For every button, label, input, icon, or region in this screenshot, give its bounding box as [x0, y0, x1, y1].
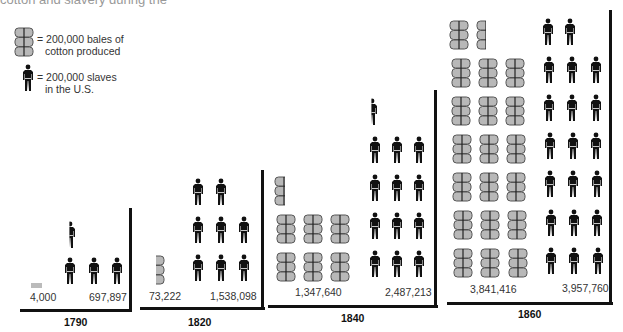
cotton-bale-icon [452, 134, 472, 164]
slave-figure-partial-icon [64, 221, 76, 249]
cotton-bale-icon [453, 248, 473, 278]
cotton-bale-icon [449, 20, 469, 50]
slave-figure-icon [568, 247, 580, 275]
cotton-bale-icon [480, 210, 500, 240]
slave-figure-icon [543, 94, 555, 122]
slave-figure-icon [369, 136, 381, 164]
cotton-bale-partial-icon [145, 255, 165, 285]
slave-figure-icon [391, 136, 403, 164]
slave-figure-icon [413, 174, 425, 202]
slave-figure-icon [111, 257, 123, 285]
chart-title-partial: cotton and slavery during the [0, 0, 167, 7]
cotton-bale-icon [451, 96, 471, 126]
slave-figure-icon [591, 170, 603, 198]
baseline [268, 305, 438, 308]
cotton-bale-icon [303, 252, 323, 282]
cotton-value-label: 4,000 [30, 291, 56, 303]
slave-figure-icon [391, 212, 403, 240]
legend-cotton-line2: cotton produced [45, 45, 120, 57]
cotton-value-label: 3,841,416 [470, 283, 517, 295]
panel-border [261, 170, 264, 310]
slaves-value-label: 697,897 [89, 291, 127, 303]
cotton-bale-fraction-icon [31, 283, 42, 288]
cotton-bale-icon [505, 58, 525, 88]
slave-figure-icon [192, 178, 204, 206]
slave-figure-icon [238, 216, 250, 244]
cotton-bale-icon [451, 58, 471, 88]
year-label: 1820 [188, 316, 211, 328]
slave-figure-icon [566, 94, 578, 122]
slave-figure-icon [192, 216, 204, 244]
slave-figure-icon [413, 212, 425, 240]
cotton-bale-icon [478, 96, 498, 126]
slave-figure-icon [544, 132, 556, 160]
cotton-bale-icon [303, 214, 323, 244]
slave-figure-icon [542, 18, 554, 46]
cotton-bale-icon [276, 252, 296, 282]
panel-border [434, 90, 437, 308]
slave-figure-icon [590, 132, 602, 160]
slaves-value-label: 2,487,213 [385, 286, 432, 298]
slaves-value-label: 3,957,760 [562, 282, 609, 294]
slave-figure-icon [566, 56, 578, 84]
baseline [20, 309, 132, 312]
panel-border [609, 10, 612, 305]
year-label: 1790 [64, 316, 87, 328]
slave-figure-icon [590, 56, 602, 84]
slave-figure-icon [544, 170, 556, 198]
slave-figure-icon [413, 250, 425, 278]
baseline [447, 302, 613, 305]
slave-figure-icon [369, 174, 381, 202]
slave-figure-icon [590, 94, 602, 122]
slave-figure-icon [391, 174, 403, 202]
cotton-bale-icon [478, 58, 498, 88]
slave-figure-icon [391, 250, 403, 278]
cotton-bale-icon [479, 134, 499, 164]
cotton-bale-icon [506, 134, 526, 164]
slaves-value-label: 1,538,098 [210, 290, 257, 302]
cotton-bale-icon [276, 214, 296, 244]
cotton-bale-icon [14, 27, 34, 57]
legend-slaves-line2: in the U.S. [45, 83, 94, 95]
slave-figure-icon [22, 64, 34, 92]
panel-border [129, 208, 132, 312]
slave-figure-icon [545, 209, 557, 237]
legend-slaves-line1: = 200,000 slaves [37, 71, 117, 83]
slave-figure-icon [543, 56, 555, 84]
slave-figure-icon [591, 209, 603, 237]
cotton-bale-icon [479, 172, 499, 202]
year-label: 1860 [518, 308, 541, 320]
slave-figure-icon [369, 212, 381, 240]
cotton-bale-icon [505, 96, 525, 126]
slave-figure-icon [369, 250, 381, 278]
cotton-bale-partial-icon [274, 176, 294, 206]
cotton-bale-icon [507, 210, 527, 240]
slave-figure-icon [215, 216, 227, 244]
cotton-bale-icon [480, 248, 500, 278]
cotton-bale-icon [330, 252, 350, 282]
slave-figure-icon [592, 247, 604, 275]
slave-figure-icon [238, 254, 250, 282]
slave-figure-icon [413, 136, 425, 164]
year-label: 1840 [341, 312, 364, 324]
cotton-value-label: 1,347,640 [295, 286, 342, 298]
slave-figure-icon [215, 178, 227, 206]
legend-cotton-line1: = 200,000 bales of [37, 33, 124, 45]
slave-figure-icon [88, 257, 100, 285]
slave-figure-icon [567, 132, 579, 160]
slave-figure-icon [64, 257, 76, 285]
slave-figure-partial-icon [366, 98, 378, 126]
cotton-bale-icon [452, 172, 472, 202]
cotton-bale-icon [508, 248, 528, 278]
cotton-bale-icon [453, 210, 473, 240]
slave-figure-icon [568, 209, 580, 237]
slave-figure-icon [567, 170, 579, 198]
baseline [140, 307, 265, 310]
slave-figure-icon [192, 254, 204, 282]
slave-figure-icon [564, 18, 576, 46]
cotton-bale-icon [330, 214, 350, 244]
cotton-bale-icon [506, 172, 526, 202]
slave-figure-icon [215, 254, 227, 282]
cotton-value-label: 73,222 [149, 290, 181, 302]
cotton-bale-partial-icon [476, 20, 496, 50]
